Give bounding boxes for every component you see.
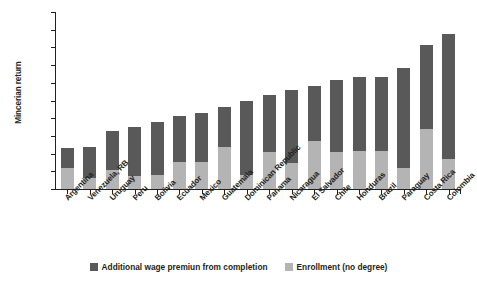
bar-column[interactable] bbox=[308, 12, 321, 189]
legend-item[interactable]: Additional wage premiun from completion bbox=[90, 262, 268, 272]
legend-swatch-enrollment bbox=[285, 263, 293, 271]
bar-column[interactable] bbox=[353, 12, 366, 189]
legend-item[interactable]: Enrollment (no degree) bbox=[285, 262, 388, 272]
bar-column[interactable] bbox=[375, 12, 388, 189]
bar-segment-completion-premium bbox=[353, 77, 366, 151]
y-tick-mark bbox=[51, 189, 56, 190]
legend-swatch-completion-premium bbox=[90, 263, 98, 271]
y-axis-title: Mincerian return bbox=[14, 23, 23, 163]
legend-label: Additional wage premiun from completion bbox=[102, 262, 268, 272]
bar-column[interactable] bbox=[218, 12, 231, 189]
bar-column[interactable] bbox=[420, 12, 433, 189]
bar-column[interactable] bbox=[442, 12, 455, 189]
bar-column[interactable] bbox=[397, 12, 410, 189]
bar-column[interactable] bbox=[61, 12, 74, 189]
bar-segment-completion-premium bbox=[240, 101, 253, 175]
bar-column[interactable] bbox=[240, 12, 253, 189]
bar-segment-enrollment bbox=[353, 151, 366, 189]
bar-segment-completion-premium bbox=[330, 80, 343, 152]
bar-segment-completion-premium bbox=[128, 127, 141, 176]
bar-column[interactable] bbox=[195, 12, 208, 189]
bar-column[interactable] bbox=[173, 12, 186, 189]
bar-segment-completion-premium bbox=[420, 45, 433, 129]
bar-segment-completion-premium bbox=[308, 86, 321, 141]
plot-area bbox=[56, 12, 460, 189]
bar-segment-completion-premium bbox=[218, 107, 231, 148]
bar-segment-completion-premium bbox=[263, 95, 276, 152]
bar-column[interactable] bbox=[263, 12, 276, 189]
bar-segment-completion-premium bbox=[151, 122, 164, 175]
bar-segment-completion-premium bbox=[61, 148, 74, 167]
bar-column[interactable] bbox=[106, 12, 119, 189]
mincerian-return-chart: Mincerian return 00.20.40.60.81.01.21.41… bbox=[0, 0, 477, 281]
chart-legend: Additional wage premiun from completionE… bbox=[0, 262, 477, 272]
legend-label: Enrollment (no degree) bbox=[297, 262, 388, 272]
bar-segment-completion-premium bbox=[195, 113, 208, 162]
bar-segment-completion-premium bbox=[442, 34, 455, 159]
bar-segment-completion-premium bbox=[375, 77, 388, 151]
bar-segment-completion-premium bbox=[397, 68, 410, 168]
bar-segment-completion-premium bbox=[173, 116, 186, 162]
bar-column[interactable] bbox=[151, 12, 164, 189]
bar-column[interactable] bbox=[128, 12, 141, 189]
bar-column[interactable] bbox=[83, 12, 96, 189]
bar-column[interactable] bbox=[330, 12, 343, 189]
